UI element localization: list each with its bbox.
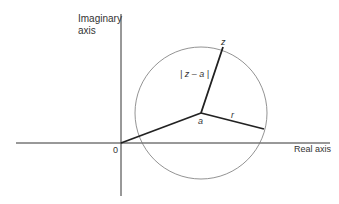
point-z-label: z (220, 37, 226, 47)
real-axis-label: Real axis (294, 144, 332, 154)
center-label: a (198, 116, 203, 126)
radius-label: r (231, 110, 235, 120)
origin-label: 0 (113, 145, 118, 155)
distance-label: | z – a | (180, 69, 209, 79)
segment-origin-to-a (121, 113, 201, 143)
imaginary-axis-label-line1: Imaginary (78, 13, 122, 24)
segment-a-to-z (201, 47, 223, 113)
imaginary-axis-label-line2: axis (78, 25, 96, 36)
complex-plane-diagram: Imaginary axis Real axis 0 a z r | z – a… (0, 0, 339, 204)
